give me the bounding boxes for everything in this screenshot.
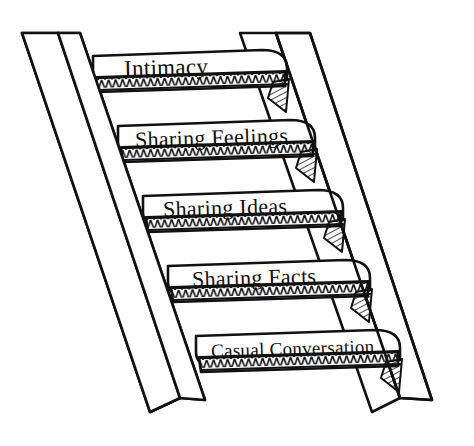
step-intimacy	[93, 50, 289, 112]
staircase-illustration	[0, 0, 474, 446]
staircase-diagram: Intimacy Sharing Feelings Sharing Ideas …	[0, 0, 474, 446]
step-sharing-feelings	[118, 120, 317, 182]
